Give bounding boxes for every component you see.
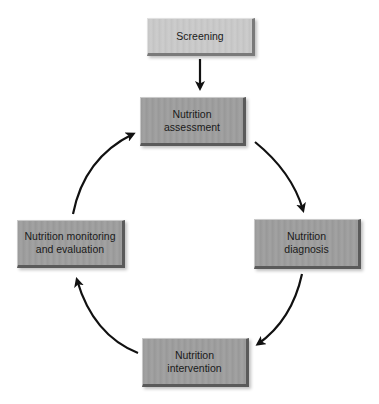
nutrition-assessment-box: Nutrition assessment <box>140 97 246 146</box>
arrow-assessment-to-diagnosis <box>255 142 303 210</box>
nutrition-monitoring-box: Nutrition monitoring and evaluation <box>17 220 125 268</box>
screening-box: Screening <box>147 18 255 56</box>
nutrition-diagnosis-box: Nutrition diagnosis <box>254 219 361 269</box>
arrow-diagnosis-to-intervention <box>258 274 302 344</box>
nutrition-diagnosis-label: Nutrition diagnosis <box>284 230 328 256</box>
nutrition-intervention-label: Nutrition intervention <box>167 349 221 375</box>
arrow-intervention-to-monitoring <box>77 280 138 353</box>
nutrition-intervention-box: Nutrition intervention <box>142 338 249 387</box>
screening-label: Screening <box>176 30 223 43</box>
nutrition-monitoring-label: Nutrition monitoring and evaluation <box>24 230 115 256</box>
nutrition-assessment-label: Nutrition assessment <box>164 108 220 134</box>
nutrition-care-process-diagram: Screening Nutrition assessment Nutrition… <box>0 0 379 404</box>
arrow-monitoring-to-assessment <box>73 134 133 214</box>
